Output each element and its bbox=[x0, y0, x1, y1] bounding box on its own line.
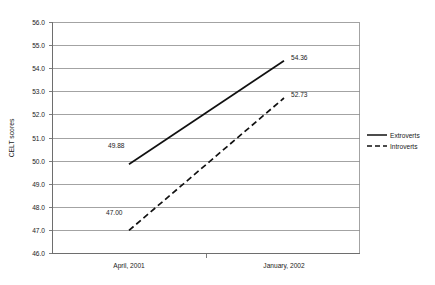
legend: Extroverts Introverts bbox=[367, 132, 420, 150]
data-label-introverts-end: 52.73 bbox=[291, 91, 308, 98]
ytick-label-48: 48.0 bbox=[32, 204, 45, 211]
xtick-label-january-2002: January, 2002 bbox=[263, 262, 305, 270]
ytick-label-52: 52.0 bbox=[32, 111, 45, 118]
series-line-extroverts bbox=[129, 61, 284, 165]
y-axis-title: CELT scores bbox=[8, 118, 15, 157]
xtick-label-april-2001: April, 2001 bbox=[113, 262, 145, 270]
ytick-label-53: 53.0 bbox=[32, 88, 45, 95]
ytick-label-51: 51.0 bbox=[32, 135, 45, 142]
ytick-label-54: 54.0 bbox=[32, 65, 45, 72]
data-label-extroverts-start: 49.88 bbox=[108, 142, 125, 149]
legend-label-introverts: Introverts bbox=[390, 143, 418, 150]
ytick-label-47: 47.0 bbox=[32, 227, 45, 234]
ytick-label-50: 50.0 bbox=[32, 158, 45, 165]
y-axis-tickmarks bbox=[49, 23, 53, 254]
ytick-label-46: 46.0 bbox=[32, 250, 45, 257]
data-label-introverts-start: 47.00 bbox=[106, 209, 123, 216]
ytick-label-49: 49.0 bbox=[32, 181, 45, 188]
series-line-introverts bbox=[129, 98, 284, 230]
ytick-label-56: 56.0 bbox=[32, 19, 45, 26]
data-label-extroverts-end: 54.36 bbox=[291, 54, 308, 61]
gridlines bbox=[53, 46, 360, 231]
celt-scores-line-chart: 56.0 55.0 54.0 53.0 52.0 51.0 50.0 49.0 … bbox=[0, 0, 435, 285]
chart-canvas: 56.0 55.0 54.0 53.0 52.0 51.0 50.0 49.0 … bbox=[0, 0, 435, 285]
legend-label-extroverts: Extroverts bbox=[390, 132, 420, 139]
ytick-label-55: 55.0 bbox=[32, 42, 45, 49]
